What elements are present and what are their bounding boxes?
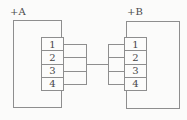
connector-b-label: +B [127, 7, 143, 17]
connector-b-pin-4: 4 [125, 77, 146, 90]
wiring-diagram-canvas: 1 2 3 4 1 2 3 4 +A +B [0, 0, 187, 120]
connector-a-pin-1: 1 [42, 38, 63, 50]
connector-a-pin-table: 1 2 3 4 [41, 37, 64, 91]
wire-a-pin3 [63, 71, 86, 72]
connector-a-label: +A [10, 7, 26, 17]
connector-a-pin-2: 2 [42, 50, 63, 63]
wire-b-pin3 [108, 71, 125, 72]
connector-b-pin-3: 3 [125, 64, 146, 77]
wire-a-pin1 [63, 44, 86, 45]
wire-a-pin2 [63, 57, 86, 58]
wire-b-pin2 [108, 57, 125, 58]
connector-b-pin-2: 2 [125, 50, 146, 63]
wire-a-pin4 [63, 84, 86, 85]
wire-b-pin4 [108, 84, 125, 85]
connector-b-pin-table: 1 2 3 4 [124, 37, 147, 91]
trunk-wire [86, 64, 109, 65]
bus-b [108, 44, 109, 85]
connector-a-pin-4: 4 [42, 77, 63, 90]
connector-a-pin-3: 3 [42, 64, 63, 77]
connector-b-pin-1: 1 [125, 38, 146, 50]
wire-b-pin1 [108, 44, 125, 45]
